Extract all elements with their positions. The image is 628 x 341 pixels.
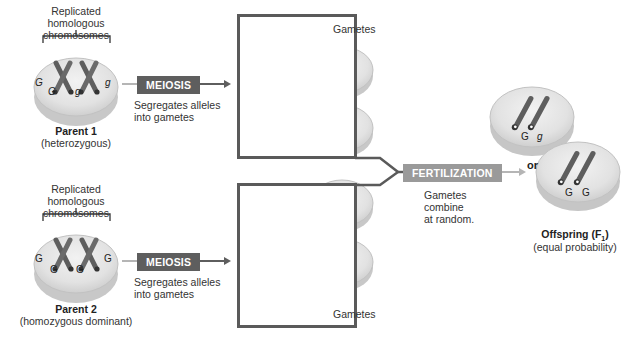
caption-line1: Segregates alleles (134, 276, 220, 288)
meiosis-step-2: MEIOSIS (137, 253, 200, 271)
gametes-box-1 (237, 14, 357, 159)
caption-line2: into gametes (134, 288, 220, 300)
fertilization-step: FERTILIZATION (403, 164, 502, 182)
allele-label: G (35, 77, 43, 88)
meiosis-step-1: MEIOSIS (137, 76, 200, 94)
bracket-label-line2: homologous chromosomes (16, 195, 136, 219)
parent2-bracket-label: Replicated homologous chromosomes (16, 183, 136, 219)
caption-line2: into gametes (134, 111, 220, 123)
svg-text:g: g (75, 86, 81, 97)
svg-text:G: G (76, 264, 84, 275)
svg-text:G: G (35, 253, 43, 264)
bracket-label-line1: Replicated (16, 5, 136, 17)
parent2-title: Parent 2 (26, 303, 126, 315)
svg-text:g: g (105, 77, 111, 88)
svg-text:G: G (104, 253, 112, 264)
parent1-subtitle: (heterozygous) (16, 137, 136, 149)
caption-line1: Gametes (424, 189, 474, 201)
parent1-bracket-label: Replicated homologous chromosomes (16, 5, 136, 41)
bracket-label-line1: Replicated (16, 183, 136, 195)
offspring-title-end: ) (605, 228, 609, 240)
caption-line2: combine (424, 201, 474, 213)
offspring-title-text: Offspring (F (541, 228, 601, 240)
svg-text:G: G (565, 187, 573, 198)
meiosis2-caption: Segregates alleles into gametes (134, 276, 220, 300)
svg-text:G: G (48, 86, 56, 97)
parent2-subtitle: (homozygous dominant) (6, 315, 146, 327)
svg-text:G: G (582, 187, 590, 198)
svg-text:G: G (50, 264, 58, 275)
or-label: or (527, 159, 538, 171)
gametes-box-2 (237, 183, 357, 328)
gametes-label-2: Gametes (333, 308, 376, 320)
caption-line1: Segregates alleles (134, 99, 220, 111)
offspring-subtitle: (equal probability) (518, 241, 628, 253)
parent1-title: Parent 1 (26, 125, 126, 137)
fertilization-caption: Gametes combine at random. (424, 189, 474, 225)
svg-text:g: g (537, 131, 543, 142)
caption-line3: at random. (424, 213, 474, 225)
gametes-label-1: Gametes (333, 23, 376, 35)
bracket-label-line2: homologous chromosomes (16, 17, 136, 41)
meiosis1-caption: Segregates alleles into gametes (134, 99, 220, 123)
svg-text:G: G (521, 131, 529, 142)
